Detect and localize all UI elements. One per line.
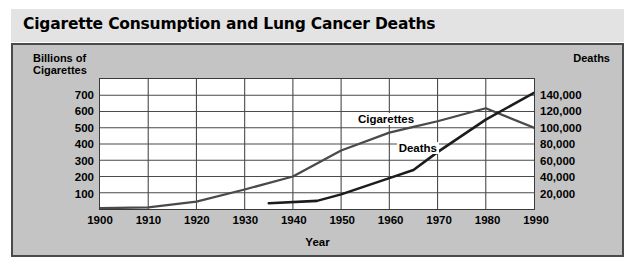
x-axis-tick-label: 1980	[475, 214, 501, 226]
y-axis-left-caption-line2: Cigarettes	[33, 64, 87, 76]
x-axis-tick-label: 1930	[233, 214, 259, 226]
y-axis-left-tick-label: 200	[75, 172, 94, 183]
y-axis-right-tick-label: 100,000	[540, 123, 582, 134]
x-axis-tick-label: 1910	[136, 214, 162, 226]
x-axis-tick-label: 1970	[426, 214, 452, 226]
y-axis-left-tick-label: 600	[75, 106, 94, 117]
y-axis-left-tick-label: 400	[75, 139, 94, 150]
series-label-deaths: Deaths	[397, 142, 439, 154]
x-axis-tick-label: 1950	[329, 214, 355, 226]
y-axis-left-tick-label: 500	[75, 123, 94, 134]
x-axis-caption: Year	[13, 236, 622, 248]
title-bar: Cigarette Consumption and Lung Cancer De…	[11, 9, 624, 42]
y-axis-right-tick-label: 20,000	[540, 189, 575, 200]
y-axis-right-tick-label: 80,000	[540, 139, 575, 150]
series-label-cigarettes: Cigarettes	[356, 113, 416, 125]
plot-area: 100200300400500600700 20,00040,00060,000…	[99, 78, 535, 210]
chart-panel: Billions of Cigarettes Deaths Year 10020…	[11, 43, 624, 257]
y-axis-right-caption: Deaths	[573, 52, 610, 64]
y-axis-right-tick-label: 60,000	[540, 156, 575, 167]
figure: Cigarette Consumption and Lung Cancer De…	[11, 9, 624, 257]
plot-svg	[100, 79, 534, 209]
x-axis-tick-label: 1900	[87, 214, 113, 226]
y-axis-right-tick-label: 120,000	[540, 106, 582, 117]
y-axis-left-tick-label: 100	[75, 189, 94, 200]
y-axis-left-tick-label: 700	[75, 90, 94, 101]
x-axis-tick-label: 1920	[184, 214, 210, 226]
x-axis-tick-label: 1990	[523, 214, 549, 226]
y-axis-right-tick-label: 40,000	[540, 172, 575, 183]
y-axis-left-tick-label: 300	[75, 156, 94, 167]
x-axis-tick-label: 1940	[281, 214, 307, 226]
y-axis-left-caption: Billions of Cigarettes	[33, 52, 87, 76]
x-axis-tick-label: 1960	[378, 214, 404, 226]
page-title: Cigarette Consumption and Lung Cancer De…	[23, 15, 435, 33]
y-axis-left-caption-line1: Billions of	[33, 52, 86, 64]
y-axis-right-tick-label: 140,000	[540, 90, 582, 101]
horizontal-gridlines	[100, 95, 534, 193]
